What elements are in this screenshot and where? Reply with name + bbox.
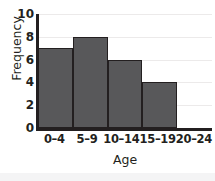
x-tick-label: 10–14 [103,132,139,146]
x-axis-label: Age [38,152,212,167]
y-tick-label: 2 [26,99,34,111]
bar-slot [73,14,108,128]
x-tick-label: 15–19 [139,132,175,146]
plot-area: 0246810 [38,14,212,128]
bar [108,60,143,128]
y-tick-label: 10 [17,8,34,20]
x-axis-spine [36,128,212,131]
bar [38,48,73,128]
y-tick-label: 8 [26,31,34,43]
bar [142,82,177,128]
bar-slot [38,14,73,128]
x-tick-label: 0–4 [38,132,71,146]
y-tick-label: 6 [26,54,34,66]
bar-slot [108,14,143,128]
histogram-figure: Frequency 0246810 0–45–910–1415–1920–24 … [0,0,215,181]
y-tick-label: 4 [26,76,34,88]
bar [73,37,108,128]
x-tick-labels: 0–45–910–1415–1920–24 [38,132,212,146]
bar-slot [177,14,212,128]
y-tick-label: 0 [26,122,34,134]
bar-slot [142,14,177,128]
x-tick-label: 5–9 [71,132,104,146]
y-axis-spine [36,14,39,129]
x-tick-label: 20–24 [176,132,212,146]
bar-series [38,14,212,128]
footer-band [0,173,215,181]
